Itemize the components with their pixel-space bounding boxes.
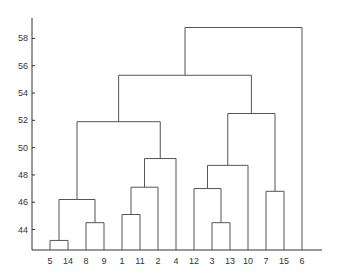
- x-tick-label: 8: [83, 256, 88, 266]
- x-tick-label: 15: [279, 256, 289, 266]
- y-tick-label: 44: [18, 225, 28, 235]
- x-tick-label: 2: [155, 256, 160, 266]
- dendrogram-svg: 5856545250484644 514891112412313107156: [0, 0, 340, 278]
- y-tick-label: 54: [18, 88, 28, 98]
- axes: [32, 18, 322, 250]
- y-tick-label: 48: [18, 170, 28, 180]
- y-tick-label: 56: [18, 61, 28, 71]
- x-tick-label: 12: [189, 256, 199, 266]
- x-tick-label: 10: [243, 256, 253, 266]
- x-tick-label: 9: [101, 256, 106, 266]
- x-tick-label: 14: [63, 256, 73, 266]
- x-axis-labels: 514891112412313107156: [47, 256, 304, 266]
- dendrogram-links: [50, 28, 302, 250]
- x-tick-label: 11: [135, 256, 144, 266]
- x-tick-label: 1: [119, 256, 124, 266]
- x-tick-label: 6: [299, 256, 304, 266]
- x-tick-label: 13: [225, 256, 235, 266]
- dendrogram-chart: 5856545250484644 514891112412313107156: [0, 0, 340, 278]
- y-tick-label: 58: [18, 33, 28, 43]
- y-tick-label: 52: [18, 115, 28, 125]
- x-tick-label: 5: [47, 256, 52, 266]
- y-axis-labels: 5856545250484644: [18, 33, 28, 234]
- x-tick-label: 4: [173, 256, 178, 266]
- x-tick-label: 7: [263, 256, 268, 266]
- y-tick-label: 46: [18, 197, 28, 207]
- y-tick-label: 50: [18, 143, 28, 153]
- x-tick-label: 3: [209, 256, 214, 266]
